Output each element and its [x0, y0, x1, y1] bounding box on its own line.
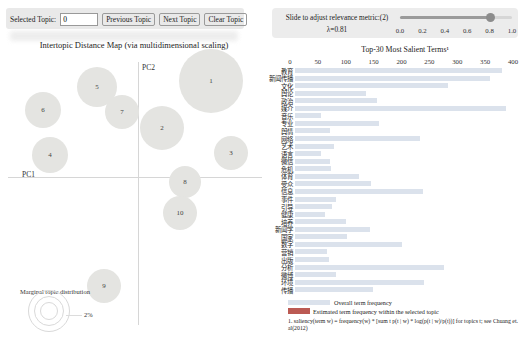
map-y-axis [138, 62, 139, 325]
term-label[interactable]: 分析 [233, 264, 293, 271]
term-label[interactable]: 艺术 [233, 143, 293, 150]
term-label[interactable]: 新闻传播 [233, 75, 293, 82]
term-frequency-bar[interactable] [295, 272, 336, 277]
term-label[interactable]: 政治 [233, 98, 293, 105]
term-label[interactable]: 教育 [233, 68, 293, 75]
topic-bubble-2[interactable]: 2 [140, 106, 184, 150]
term-frequency-bar[interactable] [295, 98, 377, 103]
term-label[interactable]: 引导 [233, 204, 293, 211]
term-frequency-bar[interactable] [295, 181, 371, 186]
term-frequency-bar[interactable] [295, 280, 424, 285]
topic-bubble-6[interactable]: 6 [25, 92, 61, 128]
term-label[interactable]: 危机 [233, 166, 293, 173]
term-label[interactable]: 微信 [233, 158, 293, 165]
term-frequency-bar[interactable] [295, 106, 506, 111]
term-frequency-bar[interactable] [295, 189, 423, 194]
term-frequency-bar[interactable] [295, 151, 321, 156]
term-label[interactable]: 数字 [233, 241, 293, 248]
selected-frequency-label: Estimated term frequency within the sele… [313, 308, 439, 315]
term-label[interactable]: 信息 [233, 188, 293, 195]
term-label[interactable]: 国家 [233, 234, 293, 241]
term-frequency-bar[interactable] [295, 136, 420, 141]
topic-bubble-8[interactable]: 8 [169, 166, 201, 198]
relevance-slider-fill [400, 16, 491, 19]
overall-frequency-swatch [288, 300, 330, 305]
term-label[interactable]: 舆情 [233, 128, 293, 135]
term-frequency-bar[interactable] [295, 128, 330, 133]
bar-xtick-300: 300 [445, 58, 469, 65]
marginal-distribution-tick: 2% [84, 311, 93, 318]
pyldavis-app: Selected Topic: Previous Topic Next Topi… [0, 0, 528, 338]
relevance-tick-1.0: 1.0 [502, 27, 522, 34]
term-label[interactable]: 环境 [233, 279, 293, 286]
term-frequency-bar[interactable] [295, 174, 359, 179]
relevance-tick-0.4: 0.4 [435, 27, 455, 34]
topic-bubble-7[interactable]: 7 [105, 95, 139, 129]
term-label[interactable]: 传播 [233, 287, 293, 294]
bar-xtick-100: 100 [334, 58, 358, 65]
term-frequency-bar[interactable] [295, 159, 330, 164]
term-frequency-bar[interactable] [295, 144, 334, 149]
bar-xtick-350: 350 [473, 58, 497, 65]
term-frequency-bar[interactable] [295, 121, 379, 126]
bar-xtick-250: 250 [417, 58, 441, 65]
term-frequency-bar[interactable] [295, 234, 347, 239]
bar-chart-title: Top-30 Most Salient Terms¹ [300, 45, 510, 54]
term-frequency-bar[interactable] [295, 166, 331, 171]
relevance-tick-0.6: 0.6 [457, 27, 477, 34]
term-label[interactable]: 文化 [233, 83, 293, 90]
marginal-ring-inner [40, 302, 58, 320]
term-frequency-bar[interactable] [295, 257, 329, 262]
term-frequency-bar[interactable] [295, 68, 502, 73]
term-frequency-bar[interactable] [295, 227, 370, 232]
term-frequency-bar[interactable] [295, 212, 325, 217]
bar-xtick-400: 400 [501, 58, 525, 65]
term-label[interactable]: 网络 [233, 136, 293, 143]
marginal-leader-line [66, 315, 82, 316]
term-frequency-bar[interactable] [295, 242, 402, 247]
previous-topic-button[interactable]: Previous Topic [102, 13, 155, 26]
term-frequency-bar[interactable] [295, 91, 366, 96]
topic-bubble-9[interactable]: 9 [87, 269, 121, 303]
topic-bubble-4[interactable]: 4 [32, 137, 68, 173]
bar-xtick-50: 50 [306, 58, 330, 65]
term-label[interactable]: 媒介 [233, 105, 293, 112]
term-label[interactable]: 出版 [233, 257, 293, 264]
term-label[interactable]: 舆论 [233, 90, 293, 97]
map-x-axis [8, 177, 262, 178]
term-label[interactable]: 新闻学 [233, 226, 293, 233]
term-frequency-bar[interactable] [295, 249, 327, 254]
term-frequency-bar[interactable] [295, 197, 336, 202]
next-topic-button[interactable]: Next Topic [159, 13, 200, 26]
term-label[interactable]: 健康 [233, 211, 293, 218]
term-label[interactable]: 语言 [233, 151, 293, 158]
saliency-footnote: 1. saliency(term w) = frequency(w) * [su… [288, 318, 526, 331]
selected-frequency-swatch [288, 308, 310, 314]
topic-bubble-10[interactable]: 10 [163, 196, 197, 230]
topic-controls: Selected Topic: Previous Topic Next Topi… [10, 11, 247, 27]
overall-frequency-label: Overall term frequency [334, 299, 392, 306]
term-label[interactable]: 事件 [233, 196, 293, 203]
bar-xtick-150: 150 [362, 58, 386, 65]
term-label[interactable]: 微博 [233, 272, 293, 279]
clear-topic-button[interactable]: Clear Topic [204, 13, 247, 26]
term-frequency-bar[interactable] [295, 76, 490, 81]
selected-topic-input[interactable] [60, 13, 98, 26]
term-frequency-bar[interactable] [295, 204, 332, 209]
term-frequency-bar[interactable] [295, 219, 346, 224]
relevance-tick-0.8: 0.8 [480, 27, 500, 34]
term-label[interactable]: 培养 [233, 219, 293, 226]
term-label[interactable]: 受众 [233, 181, 293, 188]
term-label[interactable]: 音乐 [233, 113, 293, 120]
relevance-tick-0.0: 0.0 [390, 27, 410, 34]
term-frequency-bar[interactable] [295, 113, 321, 118]
bar-xtick-200: 200 [390, 58, 414, 65]
term-frequency-bar[interactable] [295, 83, 448, 88]
term-label[interactable]: 体育 [233, 173, 293, 180]
term-label[interactable]: 专业 [233, 120, 293, 127]
pc2-axis-label: PC2 [142, 63, 155, 72]
term-frequency-bar[interactable] [295, 287, 373, 292]
relevance-slider-label: Slide to adjust relevance metric:(2) [276, 13, 398, 22]
term-label[interactable]: 营销 [233, 249, 293, 256]
term-frequency-bar[interactable] [295, 265, 444, 270]
